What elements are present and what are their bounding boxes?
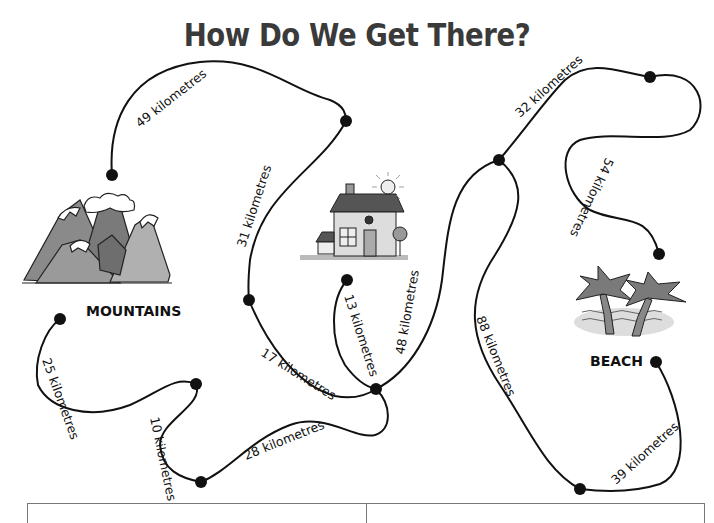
- route-label-32: 32 kilometres: [512, 52, 586, 120]
- stop-junction[interactable]: [370, 383, 382, 395]
- stop[interactable]: [190, 378, 202, 390]
- answer-cell-right[interactable]: [366, 504, 705, 523]
- route-label-28: 28 kilometres: [242, 417, 327, 463]
- place-label-mountains: MOUNTAINS: [86, 303, 181, 319]
- route-label-10: 10 kilometres: [147, 416, 179, 503]
- beach-illustration: [574, 266, 686, 336]
- route-label-17: 17 kilometres: [258, 345, 338, 403]
- mountains-illustration: [22, 193, 172, 283]
- route-label-48: 48 kilometres: [392, 269, 422, 356]
- stop[interactable]: [574, 483, 586, 495]
- stop[interactable]: [340, 115, 352, 127]
- route-label-54: 54 kilometres: [567, 156, 617, 240]
- stop-mountains-top[interactable]: [106, 169, 118, 181]
- route-label-49: 49 kilometres: [133, 66, 210, 130]
- route-label-13: 13 kilometres: [341, 292, 382, 378]
- stop[interactable]: [243, 294, 255, 306]
- stop-home[interactable]: [341, 274, 353, 286]
- stop-mountains-bottom[interactable]: [54, 313, 66, 325]
- stop-beach-top[interactable]: [653, 248, 665, 260]
- stop[interactable]: [644, 71, 656, 83]
- answer-table: [27, 503, 705, 523]
- stop[interactable]: [493, 154, 505, 166]
- route-label-31: 31 kilometres: [234, 163, 275, 249]
- answer-cell-left[interactable]: [28, 504, 366, 523]
- stop-beach[interactable]: [650, 356, 662, 368]
- route-label-88: 88 kilometres: [473, 314, 519, 399]
- house-illustration: [300, 172, 408, 260]
- route-label-25: 25 kilometres: [39, 356, 82, 442]
- place-label-beach: BEACH: [590, 353, 643, 369]
- stop[interactable]: [195, 476, 207, 488]
